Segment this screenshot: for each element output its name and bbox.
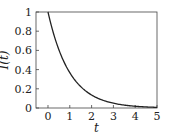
y-tick-label: 0.2 — [15, 83, 33, 96]
axes-frame — [36, 12, 157, 108]
plot-area: 01234500.20.40.60.81tI(t) — [0, 6, 161, 135]
y-tick-label: 1 — [25, 6, 32, 19]
y-tick-label: 0.8 — [15, 25, 33, 38]
y-tick-label: 0.6 — [15, 44, 33, 57]
y-axis-label: I(t) — [0, 50, 11, 70]
x-tick-label: 5 — [154, 110, 161, 123]
y-tick-label: 0.4 — [15, 64, 33, 77]
x-tick-label: 4 — [132, 110, 139, 123]
series-line — [48, 12, 157, 107]
x-tick-label: 0 — [44, 110, 51, 123]
chart: 01234500.20.40.60.81tI(t) — [0, 0, 173, 136]
y-tick-label: 0 — [25, 102, 32, 115]
x-tick-label: 1 — [66, 110, 73, 123]
x-axis-label: t — [94, 121, 99, 135]
x-tick-label: 3 — [110, 110, 117, 123]
